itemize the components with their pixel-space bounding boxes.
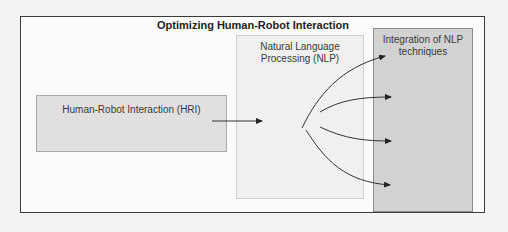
arrow-nlp-to-integration-4 (306, 130, 390, 185)
arrow-nlp-to-integration-2 (320, 97, 391, 112)
arrows-layer (0, 0, 508, 232)
arrow-nlp-to-integration-1 (302, 56, 385, 128)
arrow-nlp-to-integration-3 (320, 127, 391, 141)
